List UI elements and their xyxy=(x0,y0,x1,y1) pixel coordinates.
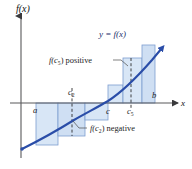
annotation-negative-prefix: f(c xyxy=(90,124,99,133)
rect-negative-2 xyxy=(58,103,85,136)
annotation-positive-suffix: ) positive xyxy=(61,56,93,65)
axis-label-c: c xyxy=(106,106,110,116)
axis-label-b: b xyxy=(152,90,157,100)
rect-negative-1 xyxy=(36,103,58,145)
curve-label: y = f(x) xyxy=(98,29,126,39)
annotation-positive: f(c5) positive xyxy=(49,56,92,66)
axis-label-c2: c2 xyxy=(68,87,75,98)
y-axis-label: f(x) xyxy=(16,3,31,15)
riemann-sum-figure: f(x) x y = f(x) f(c5) positive f(c2) neg… xyxy=(0,0,192,169)
axis-label-c5: c5 xyxy=(127,106,134,117)
axis-label-a: a xyxy=(33,105,37,115)
annotation-positive-prefix: f(c xyxy=(49,56,58,65)
x-axis-label: x xyxy=(180,98,185,108)
figure-canvas: f(x) x y = f(x) f(c5) positive f(c2) neg… xyxy=(0,0,192,169)
annotation-negative: f(c2) negative xyxy=(90,124,135,134)
curve-start-dot xyxy=(20,147,23,150)
positive-rectangles-group xyxy=(108,45,155,103)
annotation-negative-suffix: ) negative xyxy=(102,124,136,133)
